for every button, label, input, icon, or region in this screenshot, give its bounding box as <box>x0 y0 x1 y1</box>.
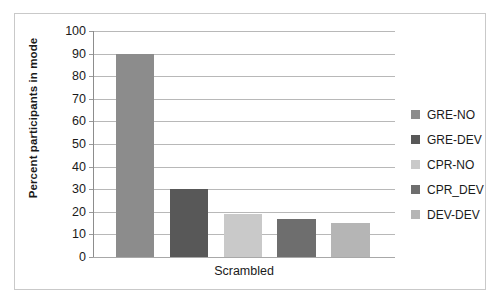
legend-item[interactable]: GRE-NO <box>411 102 484 127</box>
y-tick-label-70: 70 <box>72 92 86 106</box>
bar-cpr-dev[interactable] <box>277 219 316 257</box>
legend-item[interactable]: CPR_DEV <box>411 177 484 202</box>
y-tick-label-80: 80 <box>72 69 86 83</box>
bars-layer <box>93 31 395 257</box>
y-tick-label-60: 60 <box>72 114 86 128</box>
legend-item-label: DEV-DEV <box>427 208 480 222</box>
chart-frame: Percent participants in mode 01020304050… <box>14 13 486 290</box>
legend-item-label: GRE-DEV <box>427 133 482 147</box>
legend-item[interactable]: CPR-NO <box>411 152 484 177</box>
bar-dev-dev[interactable] <box>331 223 370 257</box>
y-tick-label-10: 10 <box>72 227 86 241</box>
legend-item[interactable]: DEV-DEV <box>411 202 484 227</box>
legend-swatch-icon <box>411 185 420 194</box>
bar-gre-dev[interactable] <box>170 189 209 257</box>
y-axis-title: Percent participants in mode <box>27 18 39 218</box>
x-axis-category-label: Scrambled <box>93 264 395 278</box>
legend-swatch-icon <box>411 135 420 144</box>
y-tick-label-50: 50 <box>72 137 86 151</box>
plot-area: 0102030405060708090100 <box>93 31 395 257</box>
gridline-0 <box>93 257 395 258</box>
y-tick-label-30: 30 <box>72 182 86 196</box>
legend-item-label: GRE-NO <box>427 108 475 122</box>
legend-item-label: CPR-NO <box>427 158 474 172</box>
legend-item[interactable]: GRE-DEV <box>411 127 484 152</box>
y-tick-label-20: 20 <box>72 205 86 219</box>
y-tick-label-40: 40 <box>72 160 86 174</box>
y-tick-label-100: 100 <box>65 24 86 38</box>
y-tick-label-0: 0 <box>79 250 86 264</box>
y-tick-mark-0 <box>89 257 93 258</box>
legend-swatch-icon <box>411 160 420 169</box>
chart-legend: GRE-NOGRE-DEVCPR-NOCPR_DEVDEV-DEV <box>411 102 484 227</box>
bar-gre-no[interactable] <box>116 54 155 257</box>
legend-swatch-icon <box>411 110 420 119</box>
bar-cpr-no[interactable] <box>224 214 263 257</box>
legend-item-label: CPR_DEV <box>427 183 484 197</box>
legend-swatch-icon <box>411 210 420 219</box>
y-tick-label-90: 90 <box>72 47 86 61</box>
